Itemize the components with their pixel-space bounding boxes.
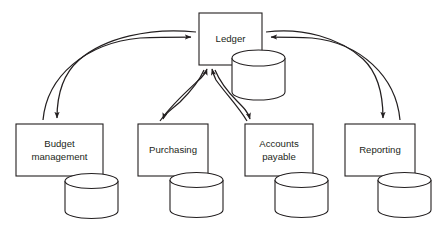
node-budget-management[interactable]: Budget management — [16, 124, 118, 219]
node-reporting[interactable]: Reporting — [345, 124, 431, 217]
node-accounts-payable[interactable]: Accounts payable — [245, 124, 328, 218]
node-budget-management-label-line-2: management — [32, 151, 88, 162]
connector-reporting-to-ledger — [271, 37, 400, 120]
node-ledger[interactable]: Ledger — [199, 13, 285, 100]
connector-ledger-to-budget — [57, 31, 196, 118]
node-accounts-payable-label-line-1: Accounts — [259, 138, 299, 149]
node-accounts-payable-database-icon — [275, 173, 328, 218]
node-accounts-payable-label-line-2: payable — [262, 151, 296, 162]
diagram-canvas: Ledger Budget management Purchasing — [0, 0, 447, 237]
node-purchasing-label: Purchasing — [149, 144, 197, 155]
node-budget-management-label-line-1: Budget — [44, 138, 75, 149]
node-ledger-database-icon — [232, 50, 285, 100]
node-budget-management-database-icon — [65, 174, 118, 219]
node-purchasing[interactable]: Purchasing — [138, 124, 223, 218]
node-purchasing-database-icon — [170, 173, 223, 218]
node-reporting-database-icon — [378, 173, 431, 218]
node-ledger-label: Ledger — [216, 33, 247, 44]
system-flow-diagram: Ledger Budget management Purchasing — [0, 0, 447, 237]
node-reporting-label: Reporting — [359, 144, 401, 155]
